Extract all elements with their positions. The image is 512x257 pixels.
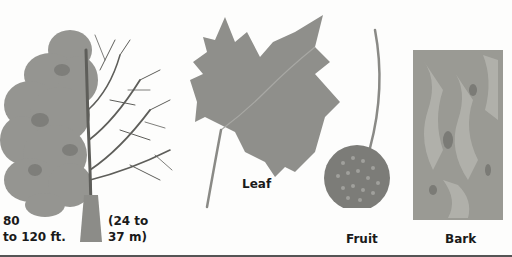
fruit-label: Fruit (346, 232, 378, 246)
fruit-illustration: Fruit (318, 28, 400, 248)
height-meters-line1: (24 to (108, 214, 148, 228)
height-meters-line2: 37 m) (108, 230, 147, 244)
bark-label: Bark (445, 232, 476, 246)
height-feet-line1: 80 (3, 214, 20, 228)
fruit-image (318, 28, 400, 208)
tree-image (0, 10, 180, 250)
tree-illustration: 80 to 120 ft. (24 to 37 m) (0, 10, 180, 250)
bark-illustration: Bark (413, 50, 508, 250)
leaf-label: Leaf (242, 177, 271, 191)
height-feet-line2: to 120 ft. (3, 230, 66, 244)
bark-image (413, 50, 503, 220)
